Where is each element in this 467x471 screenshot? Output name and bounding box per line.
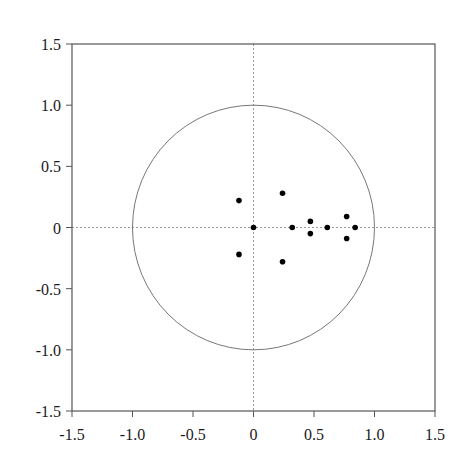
y-tick-label: 0.5 [41, 158, 61, 175]
data-point [289, 225, 295, 231]
data-point [280, 190, 286, 196]
data-point [308, 219, 314, 225]
data-point [352, 225, 358, 231]
y-axis: 1.51.00.50-0.5-1.0-1.5 [36, 36, 72, 420]
y-tick-label: -1.0 [36, 342, 61, 359]
y-tick-label: 1.5 [41, 36, 61, 53]
data-point [325, 225, 331, 231]
y-tick-label: 0 [53, 220, 61, 237]
x-tick-label: 1.0 [365, 426, 385, 443]
data-point [280, 259, 286, 265]
scatter-chart: -1.5-1.0-0.500.51.01.5 1.51.00.50-0.5-1.… [0, 0, 467, 471]
data-point [236, 252, 242, 258]
x-tick-label: 1.5 [425, 426, 445, 443]
x-tick-label: -0.5 [180, 426, 205, 443]
data-point [251, 225, 257, 231]
data-point [236, 198, 242, 204]
x-tick-label: 0 [250, 426, 258, 443]
x-axis: -1.5-1.0-0.500.51.01.5 [59, 411, 445, 443]
x-tick-label: -1.5 [59, 426, 84, 443]
data-point [308, 231, 314, 237]
y-tick-label: -0.5 [36, 281, 61, 298]
y-tick-label: 1.0 [41, 97, 61, 114]
data-point [344, 236, 350, 242]
data-point [344, 214, 350, 220]
x-tick-label: 0.5 [304, 426, 324, 443]
y-tick-label: -1.5 [36, 403, 61, 420]
x-tick-label: -1.0 [120, 426, 145, 443]
